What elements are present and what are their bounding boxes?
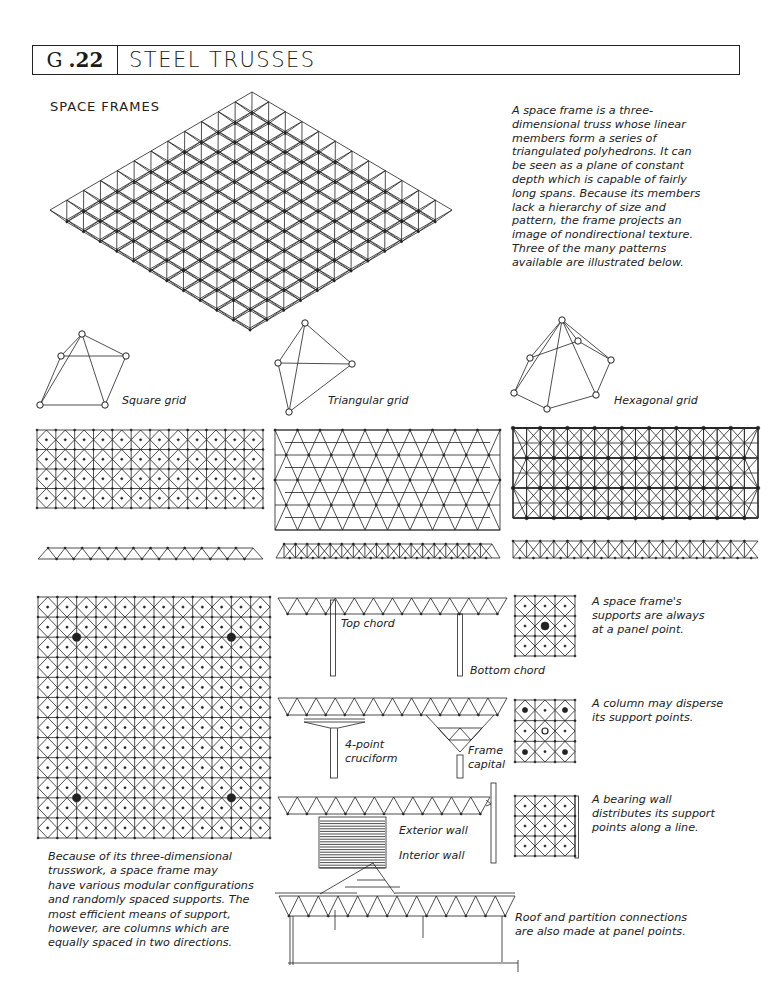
roof-connection-caption: Roof and partition connectionsare also m… xyxy=(515,911,687,939)
hexagonal-grid-module xyxy=(511,317,614,412)
section-number: .22 xyxy=(69,48,104,72)
large-plan-caption: Because of its three-dimensionaltrusswor… xyxy=(48,850,254,951)
large-space-frame-plan xyxy=(37,596,271,839)
intro-line: dimensional truss whose linear xyxy=(512,118,700,132)
intro-line: depth which is capable of fairly xyxy=(512,173,700,187)
space-frames-heading: SPACE FRAMES xyxy=(50,99,160,114)
bottom-chord-label: Bottom chord xyxy=(470,664,545,677)
support-note-bearing-wall: A bearing walldistributes its supportpoi… xyxy=(592,793,715,834)
hexagonal-grid-section xyxy=(512,540,758,559)
section-number-box: G .22 xyxy=(33,46,118,74)
frame-capital-label: Frame capital xyxy=(468,744,505,772)
note-line: A bearing wall xyxy=(592,793,715,807)
intro-line: image of nondirectional texture. xyxy=(512,228,700,242)
square-grid-section xyxy=(38,547,263,560)
intro-line: triangulated polyhedrons. It can xyxy=(512,145,700,159)
roof-connection-section xyxy=(275,863,518,972)
note-line: points along a line. xyxy=(592,821,715,835)
caption-line: most efficient means of support, xyxy=(48,908,254,922)
caption-line: trusswork, a space frame may xyxy=(48,864,254,878)
hexagonal-grid-label: Hexagonal grid xyxy=(614,394,698,407)
intro-paragraph: A space frame is a three-dimensional tru… xyxy=(512,104,700,270)
intro-line: be seen as a plane of constant xyxy=(512,159,700,173)
intro-line: lack a hierarchy of size and xyxy=(512,201,700,215)
note-line: at a panel point. xyxy=(592,623,705,637)
top-chord-label: Top chord xyxy=(341,617,395,630)
cruciform-label: 4-point cruciform xyxy=(345,738,398,766)
section-glyph-icon: G xyxy=(47,48,63,72)
page-title: STEEL TRUSSES xyxy=(129,48,316,72)
note-line: A column may disperse xyxy=(592,697,723,711)
hexagonal-grid-plan xyxy=(511,426,760,520)
support-note-panel-point: A space frame'ssupports are alwaysat a p… xyxy=(592,595,705,636)
caption-line: are also made at panel points. xyxy=(515,925,687,939)
square-grid-module xyxy=(37,331,129,408)
intro-line: Three of the many patterns xyxy=(512,242,700,256)
square-grid-plan xyxy=(36,429,264,509)
support-plan-single xyxy=(514,595,576,657)
support-note-column-disperse: A column may disperseits support points. xyxy=(592,697,723,725)
caption-line: Roof and partition connections xyxy=(515,911,687,925)
support-plan-dispersed xyxy=(514,699,576,763)
caption-line: Because of its three-dimensional xyxy=(48,850,254,864)
exterior-wall-label: Exterior wall xyxy=(399,824,468,837)
intro-line: members form a series of xyxy=(512,132,700,146)
isometric-space-frame xyxy=(50,92,452,331)
triangular-grid-label: Triangular grid xyxy=(328,394,408,407)
caption-line: and randomly spaced supports. The xyxy=(48,893,254,907)
caption-line: however, are columns which are xyxy=(48,922,254,936)
caption-line: equally spaced in two directions. xyxy=(48,936,254,950)
caption-line: have various modular configurations xyxy=(48,879,254,893)
note-line: supports are always xyxy=(592,609,705,623)
square-grid-label: Square grid xyxy=(122,394,186,407)
intro-line: available are illustrated below. xyxy=(512,256,700,270)
support-plan-wall xyxy=(514,795,579,858)
intro-line: long spans. Because its members xyxy=(512,187,700,201)
interior-wall-label: Interior wall xyxy=(399,849,464,862)
intro-line: A space frame is a three- xyxy=(512,104,700,118)
note-line: A space frame's xyxy=(592,595,705,609)
note-line: distributes its support xyxy=(592,807,715,821)
page-header: G .22 STEEL TRUSSES xyxy=(32,45,740,75)
triangular-grid-section xyxy=(276,543,500,559)
note-line: its support points. xyxy=(592,711,723,725)
triangular-grid-plan xyxy=(274,429,501,530)
intro-line: pattern, the frame projects an xyxy=(512,214,700,228)
